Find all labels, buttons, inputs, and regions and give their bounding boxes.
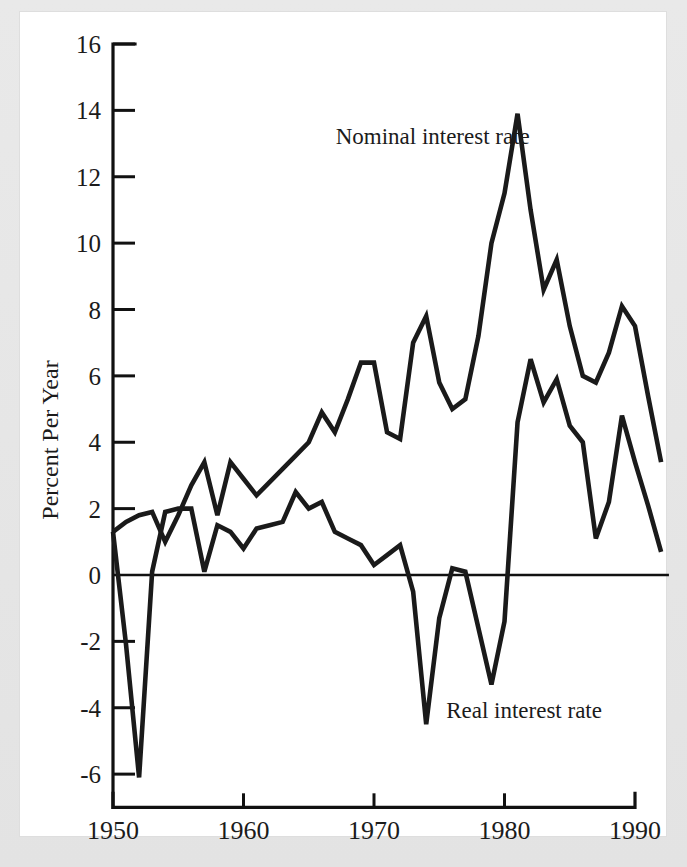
x-tick-label: 1990 (609, 816, 661, 845)
y-tick-label: 2 (89, 496, 102, 523)
x-tick-label: 1950 (87, 816, 139, 845)
interest-rate-chart: Percent Per Year -6-4-20246810121416 195… (0, 0, 687, 867)
y-tick-label: 16 (76, 31, 101, 58)
y-tick-label: -6 (80, 761, 101, 788)
series-nominal-interest-rate (113, 114, 661, 542)
y-tick-label: 12 (76, 164, 101, 191)
y-tick-label: 4 (89, 429, 102, 456)
x-tick-label: 1970 (348, 816, 400, 845)
figure-page: Percent Per Year -6-4-20246810121416 195… (0, 0, 687, 867)
y-tick-label: -4 (80, 695, 101, 722)
y-tick-label: -2 (80, 628, 101, 655)
y-tick-label: 10 (76, 230, 101, 257)
x-axis-ticks: 19501960197019801990 (87, 793, 661, 845)
y-tick-label: 6 (89, 363, 102, 390)
x-tick-label: 1960 (218, 816, 270, 845)
y-tick-label: 8 (89, 297, 102, 324)
x-tick-label: 1980 (479, 816, 531, 845)
y-axis-ticks: -6-4-20246810121416 (76, 31, 135, 788)
annotation-nominal-interest-rate: Nominal interest rate (336, 124, 530, 149)
y-axis-title: Percent Per Year (37, 360, 63, 519)
y-tick-label: 14 (76, 97, 102, 124)
y-tick-label: 0 (89, 562, 102, 589)
annotation-real-interest-rate: Real interest rate (446, 698, 602, 723)
chart-svg: Percent Per Year -6-4-20246810121416 195… (0, 0, 687, 867)
